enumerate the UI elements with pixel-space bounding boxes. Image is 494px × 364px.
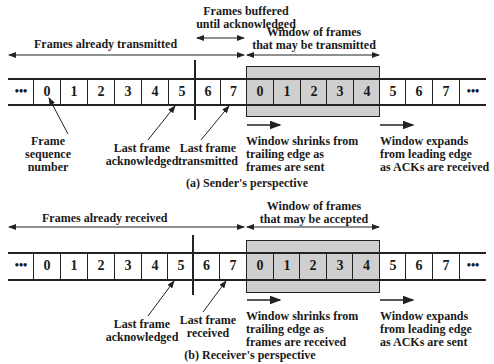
last-received-pointer-arrow bbox=[203, 281, 226, 312]
seq-pointer-arrow bbox=[49, 98, 68, 134]
arrow-overlay bbox=[0, 0, 494, 364]
last-ack-pointer-arrow bbox=[148, 281, 174, 316]
last-transmitted-pointer-arrow bbox=[201, 106, 229, 140]
last-ack-pointer-arrow bbox=[148, 106, 175, 140]
